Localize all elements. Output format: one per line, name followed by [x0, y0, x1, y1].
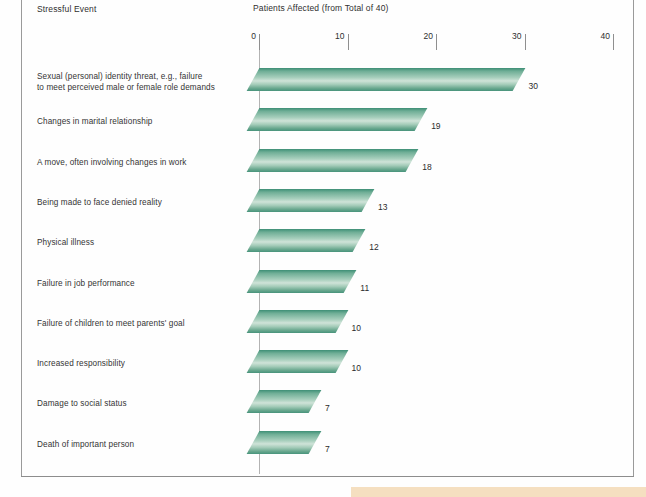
bar-value-label: 19 — [431, 121, 440, 131]
chart-page: Stressful Event Patients Affected (from … — [0, 0, 646, 497]
bar-value-label: 7 — [325, 444, 330, 454]
bar-row-label: Failure in job performance — [37, 278, 252, 289]
bar-row-label: Failure of children to meet parents' goa… — [37, 318, 252, 329]
bar-value-label: 7 — [325, 403, 330, 413]
bar-value-label: 12 — [369, 242, 378, 252]
bar-row-label: Sexual (personal) identity threat, e.g.,… — [37, 71, 252, 93]
bar-row-label: Damage to social status — [37, 398, 252, 409]
bar-value-label: 10 — [352, 363, 361, 373]
bar-value-label: 11 — [360, 283, 369, 293]
bar[interactable] — [246, 350, 347, 373]
bar[interactable] — [246, 108, 427, 131]
bar-row-label: Changes in marital relationship — [37, 116, 252, 127]
bar-row-label: A move, often involving changes in work — [37, 157, 252, 168]
bar-row-label: Being made to face denied reality — [37, 197, 252, 208]
bar[interactable] — [246, 431, 321, 454]
bar-value-label: 10 — [352, 323, 361, 333]
bar-row-label: Death of important person — [37, 439, 252, 450]
bar[interactable] — [246, 310, 347, 333]
bar[interactable] — [246, 229, 365, 252]
bar[interactable] — [246, 390, 321, 413]
bar[interactable] — [246, 270, 356, 293]
bar[interactable] — [246, 68, 524, 91]
bar[interactable] — [246, 149, 418, 172]
bar-rows: Sexual (personal) identity threat, e.g.,… — [0, 0, 646, 497]
bar-value-label: 13 — [378, 202, 387, 212]
bar-value-label: 18 — [422, 162, 431, 172]
bar-row-label: Physical illness — [37, 237, 252, 248]
bar-row-label: Increased responsibility — [37, 358, 252, 369]
bar-value-label: 30 — [529, 81, 538, 91]
bar[interactable] — [246, 189, 374, 212]
